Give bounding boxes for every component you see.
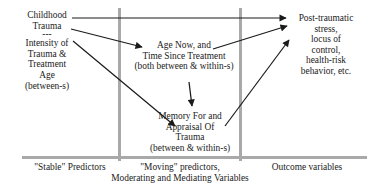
node-text: Intensity of [12, 38, 82, 49]
node-age-now: Age Now, and Time Since Treatment (both … [128, 40, 240, 72]
node-outcome: Post-traumatic stress, locus of control,… [290, 13, 362, 77]
node-separator: --- [12, 31, 82, 38]
node-memory: Memory For and Appraisal Of Trauma (betw… [150, 111, 230, 153]
node-text: (both between & within-s) [128, 61, 240, 72]
node-text: stress, [290, 24, 362, 35]
column-label-moving: "Moving" predictors, Moderating and Medi… [108, 162, 252, 183]
node-text: control, [290, 45, 362, 56]
node-text: locus of [290, 34, 362, 45]
node-text: Memory For and [150, 111, 230, 122]
node-text: Age Now, and [128, 40, 240, 51]
node-text: (between & within-s) [150, 143, 230, 154]
column-label-stable: "Stable" Predictors [22, 162, 118, 173]
column-label-text: "Moving" predictors, [108, 162, 252, 173]
node-text: Childhood [12, 10, 82, 21]
node-text: Post-traumatic [290, 13, 362, 24]
column-label-text: Moderating and Mediating Variables [108, 173, 252, 184]
node-childhood-trauma: Childhood Trauma --- Intensity of Trauma… [12, 10, 82, 91]
node-text: behavior, etc. [290, 66, 362, 77]
arrow-age-to-memory [189, 82, 192, 106]
node-text: health-risk [290, 55, 362, 66]
column-label-outcome: Outcome variables [262, 162, 352, 173]
node-text: Trauma [150, 132, 230, 143]
node-text: Time Since Treatment [128, 51, 240, 62]
node-text: Appraisal Of [150, 122, 230, 133]
node-text: Treatment [12, 59, 82, 70]
node-text: (between-s) [12, 81, 82, 92]
node-text: Trauma & [12, 49, 82, 60]
node-text: Age [12, 70, 82, 81]
